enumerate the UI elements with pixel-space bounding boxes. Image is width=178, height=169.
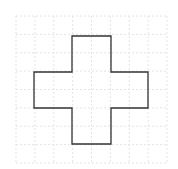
- grid-lines: [16, 16, 167, 163]
- grid-canvas: [0, 0, 178, 169]
